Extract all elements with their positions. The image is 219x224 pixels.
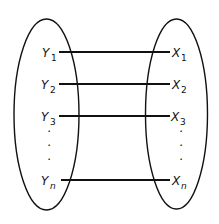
- svg-text:1: 1: [181, 53, 187, 63]
- right-ellipsis-dot-1: ·: [179, 125, 183, 139]
- right-element-3: X 3: [170, 110, 186, 127]
- right-element-n: X n: [171, 174, 187, 191]
- svg-text:X: X: [171, 78, 181, 92]
- left-ellipsis-dot-1: ·: [47, 125, 51, 139]
- right-element-2: X 2: [171, 78, 187, 95]
- right-ellipsis-dot-2: ·: [179, 139, 183, 153]
- diagram-svg: Y 1 Y 2 Y 3 · · · Y n X 1 X 2 X 3 · · · …: [0, 0, 219, 224]
- svg-text:1: 1: [51, 53, 57, 63]
- svg-text:n: n: [181, 181, 187, 191]
- svg-text:Y: Y: [42, 46, 51, 60]
- left-element-1: Y 1: [42, 46, 57, 63]
- svg-text:n: n: [50, 181, 56, 191]
- svg-text:Y: Y: [41, 174, 50, 188]
- svg-text:X: X: [171, 174, 181, 188]
- left-element-2: Y 2: [41, 78, 56, 95]
- mapping-diagram: Y 1 Y 2 Y 3 · · · Y n X 1 X 2 X 3 · · · …: [0, 0, 219, 224]
- svg-text:Y: Y: [41, 78, 50, 92]
- right-ellipsis-dot-3: ·: [179, 153, 183, 167]
- svg-text:2: 2: [50, 85, 56, 95]
- left-ellipsis-dot-3: ·: [47, 153, 51, 167]
- svg-text:Y: Y: [41, 110, 50, 124]
- svg-text:X: X: [171, 46, 181, 60]
- right-element-1: X 1: [171, 46, 187, 63]
- left-ellipsis-dot-2: ·: [47, 139, 51, 153]
- svg-text:X: X: [170, 110, 180, 124]
- left-element-n: Y n: [41, 174, 56, 191]
- svg-text:3: 3: [50, 117, 56, 127]
- svg-text:2: 2: [181, 85, 187, 95]
